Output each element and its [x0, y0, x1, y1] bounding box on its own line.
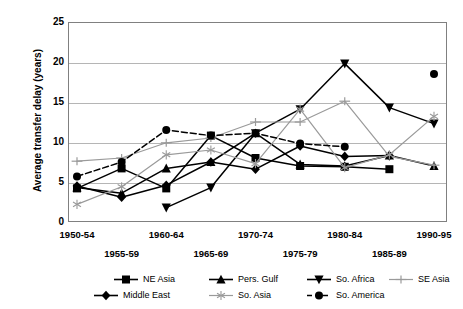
gridline: [69, 183, 446, 184]
legend-item-ne-asia[interactable]: NE Asia: [113, 272, 175, 287]
plot-area: [68, 22, 447, 222]
data-point-gray-plus: [396, 276, 407, 284]
x-axis-tick-labels: 1950-541955-591960-641965-691970-741975-…: [0, 222, 463, 262]
x-tick-label: 1980-84: [327, 229, 362, 240]
legend-label: Pers. Gulf: [238, 274, 278, 285]
gridline: [69, 63, 446, 64]
legend-marker-filled-triangle-down-icon: [306, 274, 332, 285]
legend-row: Middle EastSo. AsiaSo. America: [68, 288, 447, 303]
x-tick-label: 1985-89: [372, 248, 407, 259]
legend-item-pers-gulf[interactable]: Pers. Gulf: [208, 272, 278, 287]
gridline: [69, 143, 446, 144]
x-tick-label: 1955-59: [104, 248, 139, 259]
legend-label: So. Africa: [336, 274, 375, 285]
legend-marker-gray-asterisk-icon: [208, 290, 234, 301]
gridline: [69, 103, 446, 104]
legend-marker-filled-triangle-up-icon: [208, 274, 234, 285]
chart-legend: NE AsiaPers. GulfSo. AfricaSE Asia Middl…: [68, 272, 447, 306]
legend-marker-filled-circle-icon: [306, 290, 332, 301]
data-point-filled-square: [122, 276, 130, 284]
legend-label: SE Asia: [418, 274, 450, 285]
legend-item-middle-east[interactable]: Middle East: [93, 288, 170, 303]
y-tick-label: 25: [6, 17, 64, 27]
x-tick-label: 1950-54: [60, 229, 95, 240]
y-tick-label: 5: [6, 177, 64, 187]
y-tick-label: 15: [6, 97, 64, 107]
legend-item-so-africa[interactable]: So. Africa: [306, 272, 375, 287]
line-chart: Average transfer delay (years) 051015202…: [0, 0, 463, 309]
legend-marker-filled-diamond-icon: [93, 290, 119, 301]
legend-row: NE AsiaPers. GulfSo. AfricaSE Asia: [68, 272, 447, 287]
x-tick-label: 1960-64: [149, 229, 184, 240]
x-tick-label: 1970-74: [238, 229, 273, 240]
legend-marker-filled-square-icon: [113, 274, 139, 285]
data-point-filled-diamond: [102, 291, 111, 301]
legend-item-so-america[interactable]: So. America: [306, 288, 385, 303]
legend-item-se-asia[interactable]: SE Asia: [388, 272, 450, 287]
y-tick-label: 20: [6, 57, 64, 67]
legend-label: NE Asia: [143, 274, 175, 285]
legend-label: Middle East: [123, 290, 170, 301]
x-tick-label: 1965-69: [193, 248, 228, 259]
x-tick-label: 1975-79: [283, 248, 318, 259]
y-tick-label: 10: [6, 137, 64, 147]
data-point-filled-circle: [315, 292, 323, 300]
y-axis-tick-labels: 0510152025: [0, 22, 64, 222]
legend-item-so-asia[interactable]: So. Asia: [208, 288, 271, 303]
legend-label: So. Asia: [238, 290, 271, 301]
legend-marker-gray-plus-icon: [388, 274, 414, 285]
x-tick-label: 1990-95: [417, 229, 452, 240]
legend-label: So. America: [336, 290, 385, 301]
